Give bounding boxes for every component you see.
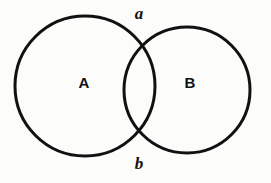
intersection-point-b-label: b xyxy=(135,155,144,172)
circle-a-label: A xyxy=(78,75,89,90)
circle-b-label: B xyxy=(184,75,195,90)
diagram-canvas: A B a b xyxy=(0,0,271,183)
intersection-point-a-label: a xyxy=(135,5,144,22)
